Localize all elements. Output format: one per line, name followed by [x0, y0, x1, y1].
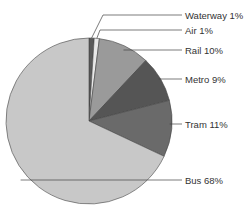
label-air: Air 1% — [185, 25, 214, 36]
pie-slices — [6, 38, 172, 204]
leader-line-air — [97, 30, 182, 38]
label-metro: Metro 9% — [185, 74, 226, 85]
label-tram: Tram 11% — [185, 119, 228, 130]
label-rail: Rail 10% — [185, 45, 224, 56]
label-bus: Bus 68% — [185, 175, 224, 186]
slice-labels: Waterway 1% Air 1% Rail 10% Metro 9% Tra… — [185, 10, 244, 186]
leader-line-waterway — [92, 15, 182, 38]
label-waterway: Waterway 1% — [185, 10, 244, 21]
pie-chart: Waterway 1% Air 1% Rail 10% Metro 9% Tra… — [0, 0, 245, 215]
